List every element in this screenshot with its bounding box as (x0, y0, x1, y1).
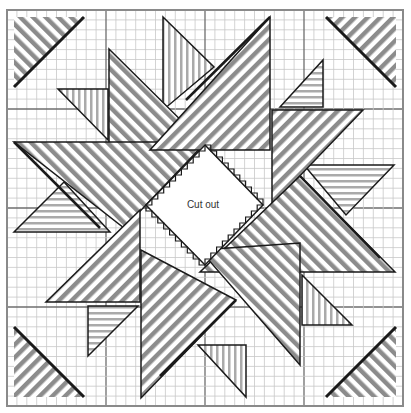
quilt-diagram: Cut out (0, 0, 411, 413)
small-triangle-6 (302, 275, 352, 325)
cut-out-label: Cut out (170, 199, 236, 210)
small-triangle-1 (58, 89, 108, 140)
small-triangle-7 (88, 306, 138, 356)
small-triangle-4 (280, 60, 323, 107)
